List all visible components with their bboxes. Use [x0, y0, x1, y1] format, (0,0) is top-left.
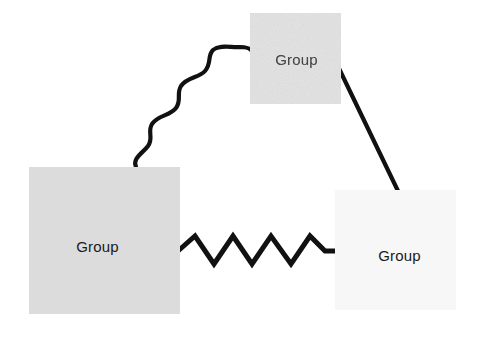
connector-straight-path [333, 56, 398, 191]
connector-wavy-path [135, 47, 251, 167]
group-node-left[interactable]: Group [29, 167, 180, 314]
group-node-left-label: Group [76, 239, 119, 254]
connector-zigzag-path [178, 236, 336, 264]
group-node-top[interactable]: Group [250, 13, 341, 104]
diagram-canvas: Group Group Group [0, 0, 481, 339]
group-node-top-label: Group [275, 52, 318, 67]
group-node-right[interactable]: Group [335, 190, 456, 310]
group-node-right-label: Group [378, 248, 421, 263]
